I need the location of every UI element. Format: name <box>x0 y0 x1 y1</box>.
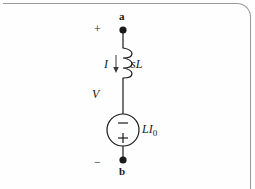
circuit-figure: a b + − I sL V LI0 <box>0 0 255 189</box>
circuit-schematic <box>0 0 255 189</box>
terminal-polarity-plus: + <box>94 23 101 35</box>
current-arrow-head <box>113 67 119 73</box>
node-label-b: b <box>119 166 125 177</box>
terminal-dot-b <box>119 156 126 163</box>
terminal-dot-a <box>119 26 126 33</box>
node-label-a: a <box>119 11 125 22</box>
terminal-polarity-minus: − <box>94 156 101 168</box>
voltage-source-label-main: LI <box>142 122 153 136</box>
voltage-source-label: LI0 <box>142 123 157 138</box>
voltage-source-label-subscript: 0 <box>153 128 158 138</box>
voltage-label: V <box>92 88 99 100</box>
current-label: I <box>104 58 108 70</box>
inductor-impedance-label: sL <box>131 58 142 70</box>
